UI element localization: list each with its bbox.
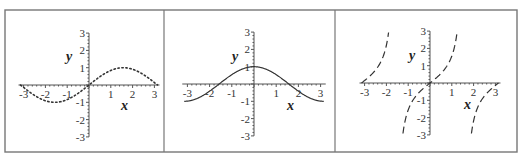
x-tick-label: 2 xyxy=(471,86,477,98)
y-tick-label: 2 xyxy=(421,42,427,54)
x-tick-label: 1 xyxy=(273,87,279,99)
x-axis-label: x xyxy=(120,98,128,113)
function-plots-figure: x y -3-2-1123-3-2-1123 x y -3-2-1123-3-2… xyxy=(0,0,524,160)
y-tick-label: -1 xyxy=(417,94,426,106)
x-tick-label: 1 xyxy=(108,88,114,100)
x-axis-label: x xyxy=(286,98,294,113)
x-tick-label: 1 xyxy=(449,86,455,98)
y-tick-label: 3 xyxy=(80,27,86,39)
x-tick-label: -2 xyxy=(41,88,50,100)
y-tick-label: 3 xyxy=(245,26,251,38)
x-tick-label: 3 xyxy=(493,86,499,98)
x-tick-label: -1 xyxy=(227,87,236,99)
x-tick-label: -1 xyxy=(404,86,413,98)
y-tick-label: -2 xyxy=(417,112,426,124)
x-tick-label: -2 xyxy=(382,86,391,98)
y-tick-label: 3 xyxy=(421,25,427,37)
panel-cosine-plot: x y -3-2-1123-3-2-1123 xyxy=(182,26,325,142)
y-tick-label: -1 xyxy=(241,95,250,107)
y-tick-label: -2 xyxy=(241,113,250,125)
y-axis-label: y xyxy=(407,48,416,63)
y-tick-label: -3 xyxy=(241,130,251,142)
y-tick-label: -2 xyxy=(76,114,85,126)
y-tick-label: -3 xyxy=(76,131,86,143)
y-tick-label: 1 xyxy=(421,60,427,72)
y-tick-label: 2 xyxy=(80,44,86,56)
x-tick-label: 3 xyxy=(318,87,324,99)
y-axis-label: y xyxy=(230,49,239,64)
x-tick-label: -3 xyxy=(360,86,370,98)
panel-tangent-plot: x y -3-2-1123-3-2-1123 xyxy=(360,25,501,141)
x-tick-label: 3 xyxy=(152,88,158,100)
x-tick-label: -3 xyxy=(183,87,193,99)
y-tick-label: 2 xyxy=(245,43,251,55)
y-tick-label: 1 xyxy=(80,62,86,74)
y-axis-label: y xyxy=(64,49,73,64)
x-tick-label: 2 xyxy=(130,88,136,100)
curve-tan xyxy=(362,32,389,83)
y-tick-label: -3 xyxy=(417,129,427,141)
panel-sine-plot: x y -3-2-1123-3-2-1123 xyxy=(19,27,160,143)
x-axis-label: x xyxy=(463,97,471,112)
y-tick-label: -1 xyxy=(76,96,85,108)
